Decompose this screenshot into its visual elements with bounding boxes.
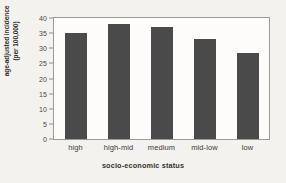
bar <box>194 39 216 139</box>
x-axis-tick-label: low <box>242 143 254 152</box>
y-axis-tick-label: 10 <box>39 105 47 112</box>
bar <box>151 27 173 139</box>
x-axis-tick-label: mid-low <box>191 143 218 152</box>
bar-slot <box>237 18 259 139</box>
x-axis-title: socio-economic status <box>0 161 286 170</box>
y-axis-tick-mark <box>49 93 53 94</box>
bar-slot <box>194 18 216 139</box>
y-axis-tick-label: 40 <box>39 15 47 22</box>
y-axis-tick-label: 0 <box>43 136 47 143</box>
y-axis-tick-mark <box>49 139 53 140</box>
bars-layer <box>54 18 269 139</box>
y-axis-title-line-2: (per 100,000) <box>11 21 20 60</box>
y-axis-tick-label: 30 <box>39 45 47 52</box>
bar <box>108 24 130 139</box>
y-axis-tick-mark <box>49 78 53 79</box>
y-axis-tick-label: 25 <box>39 60 47 67</box>
x-axis-tick-label: medium <box>148 143 175 152</box>
y-axis-tick-mark <box>49 18 53 19</box>
bar <box>65 33 87 139</box>
x-axis-tick-label: high-mid <box>104 143 134 152</box>
y-axis-tick-label: 5 <box>43 120 47 127</box>
y-axis-tick-mark <box>49 63 53 64</box>
x-axis: highhigh-midmediummid-lowlow <box>54 143 269 155</box>
bar-slot <box>108 18 130 139</box>
y-axis-title-line-1: age-adjusted incidence <box>2 6 11 77</box>
bar-slot <box>151 18 173 139</box>
y-axis-tick-mark <box>49 33 53 34</box>
bar-slot <box>65 18 87 139</box>
bar <box>237 53 259 140</box>
y-axis-tick-label: 20 <box>39 75 47 82</box>
y-axis-tick-mark <box>49 123 53 124</box>
y-axis-tick-label: 15 <box>39 90 47 97</box>
bar-chart-figure: 0510152025303540 age-adjusted incidence … <box>0 0 286 183</box>
y-axis-tick-mark <box>49 108 53 109</box>
y-axis-tick-mark <box>49 48 53 49</box>
y-axis-tick-label: 35 <box>39 30 47 37</box>
x-axis-tick-label: high <box>68 143 83 152</box>
y-axis-title: age-adjusted incidence (per 100,000) <box>0 0 22 101</box>
